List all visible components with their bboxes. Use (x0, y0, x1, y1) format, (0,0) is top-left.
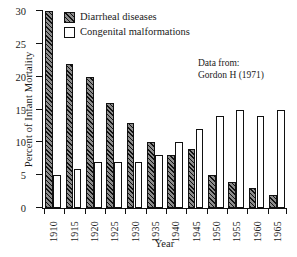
bar (236, 110, 243, 209)
y-axis-tick: 30 (36, 10, 43, 11)
source-line-1: Data from: (198, 57, 264, 69)
bar (257, 116, 264, 208)
bar (196, 129, 203, 208)
legend-swatch-icon (64, 27, 75, 38)
x-axis-tick (207, 208, 208, 214)
x-axis-tick-label: 1945 (190, 221, 201, 242)
x-axis-tick (44, 208, 45, 214)
x-axis-tick (166, 208, 167, 214)
legend-item: Diarrheal diseases (64, 10, 190, 24)
bar (53, 175, 60, 208)
x-axis-tick (247, 208, 248, 214)
y-axis-tick: 20 (36, 76, 43, 77)
x-axis-tick-label: 1965 (271, 221, 282, 242)
y-axis-tick: 25 (36, 43, 43, 44)
x-axis-tick (286, 208, 287, 214)
x-axis-tick-label: 1910 (48, 221, 59, 242)
x-axis-tick (186, 208, 187, 214)
x-axis-tick-label: 1960 (251, 221, 262, 242)
y-axis-tick-label: 30 (16, 6, 27, 17)
bar (208, 175, 215, 208)
bar (216, 116, 223, 208)
x-axis-tick (268, 208, 269, 214)
bar (269, 195, 276, 208)
bar (228, 182, 235, 208)
y-axis-tick-label: 25 (16, 38, 27, 49)
y-axis-tick-label: 10 (16, 137, 27, 148)
x-axis-tick-label: 1930 (129, 221, 140, 242)
legend-item-label: Congenital malformations (80, 25, 190, 39)
x-axis-tick-label: 1935 (149, 221, 160, 242)
bar (188, 149, 195, 208)
source-line-2: Gordon H (1971) (198, 69, 264, 81)
bar (147, 142, 154, 208)
y-axis-tick-label: 15 (16, 104, 27, 115)
x-axis-tick (125, 208, 126, 214)
bar (86, 77, 93, 208)
x-axis-tick-label: 1955 (231, 221, 242, 242)
bar (127, 123, 134, 208)
bar (74, 169, 81, 208)
y-axis-tick-label: 20 (16, 71, 27, 82)
y-axis-tick: 15 (36, 109, 43, 110)
source-annotation: Data from: Gordon H (1971) (198, 57, 264, 81)
legend-item-label: Diarrheal diseases (80, 10, 157, 24)
bar (45, 11, 52, 208)
x-axis-tick-label: 1940 (170, 221, 181, 242)
bar (277, 110, 284, 209)
bar (167, 155, 174, 208)
bar (114, 162, 121, 208)
y-axis-tick-label: 5 (21, 170, 26, 181)
bar (175, 142, 182, 208)
bar (135, 162, 142, 208)
x-axis-tick (64, 208, 65, 214)
legend-item: Congenital malformations (64, 25, 190, 39)
x-axis-tick-label: 1920 (88, 221, 99, 242)
bar (94, 162, 101, 208)
chart-legend: Diarrheal diseasesCongenital malformatio… (64, 10, 190, 40)
plot-area: 051015202530 191019151920192519301935194… (42, 11, 287, 209)
bar (155, 155, 162, 208)
y-axis-tick-label: 0 (21, 203, 26, 214)
y-axis-tick: 0 (36, 207, 43, 208)
x-axis-tick-label: 1915 (68, 221, 79, 242)
y-axis-tick: 10 (36, 141, 43, 142)
x-axis-tick (105, 208, 106, 214)
x-axis-tick (146, 208, 147, 214)
legend-swatch-icon (64, 12, 75, 23)
bar (66, 64, 73, 208)
bar (249, 188, 256, 208)
x-axis-tick-label: 1950 (210, 221, 221, 242)
y-axis-tick: 5 (36, 174, 43, 175)
chart-figure: Percent of Infant Mortality Year 0510152… (0, 0, 297, 257)
x-axis-tick (85, 208, 86, 214)
bar (106, 103, 113, 208)
x-axis-tick-label: 1925 (109, 221, 120, 242)
x-axis-tick (227, 208, 228, 214)
